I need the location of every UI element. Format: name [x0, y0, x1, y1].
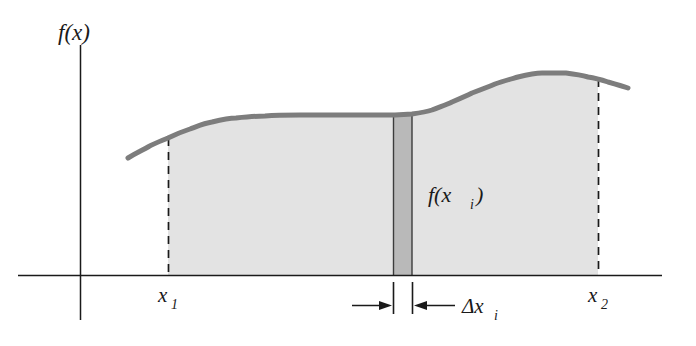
area-under-curve-diagram: f(x) x 1 x 2 f(x i ) Δx i	[0, 0, 696, 346]
figure-container: f(x) x 1 x 2 f(x i ) Δx i	[0, 0, 696, 346]
delta-arrow-right-head	[414, 301, 427, 310]
x1-label-base: x	[157, 283, 168, 307]
shaded-area-region	[168, 73, 598, 275]
fxi-label-close-paren: )	[474, 182, 483, 207]
representative-strip	[393, 116, 412, 275]
delta-xi-label-base: Δx	[461, 294, 484, 318]
fxi-label-subscript: i	[470, 197, 474, 212]
fxi-label-base: f(x	[428, 182, 451, 207]
x2-label-base: x	[587, 283, 598, 307]
x1-label: x 1	[157, 283, 178, 312]
y-axis-label: f(x)	[58, 20, 90, 45]
x2-label-subscript: 2	[601, 297, 608, 312]
delta-arrow-left-head	[379, 301, 392, 310]
x2-label: x 2	[587, 283, 608, 312]
delta-xi-label: Δx i	[461, 294, 498, 323]
x1-label-subscript: 1	[171, 297, 178, 312]
delta-xi-label-subscript: i	[494, 308, 498, 323]
